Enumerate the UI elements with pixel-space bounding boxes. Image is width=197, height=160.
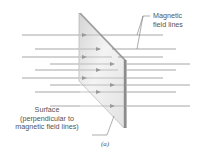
plate-edge <box>124 60 127 128</box>
label-surface: Surface (perpendicular to magnetic field… <box>4 106 90 132</box>
label-line: magnetic field lines) <box>4 123 90 132</box>
label-field-lines: Magnetic field lines <box>153 12 183 29</box>
figure-caption: (a) <box>101 140 109 148</box>
leader-surface <box>92 116 114 135</box>
leader-field-lines <box>137 16 150 35</box>
field-lines-left <box>22 35 80 106</box>
label-line: field lines <box>153 21 183 30</box>
